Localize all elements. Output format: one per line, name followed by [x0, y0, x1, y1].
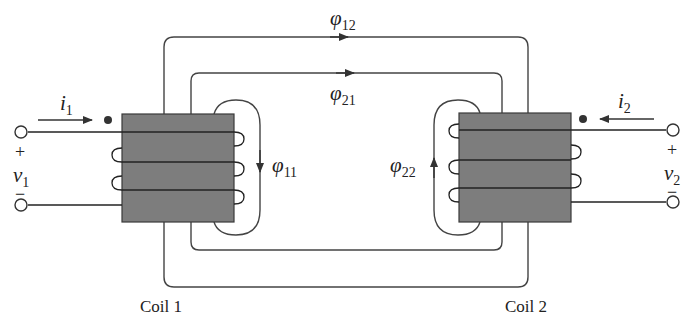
label-phi12: φ12: [330, 6, 356, 33]
terminal-coil2-plus: [667, 124, 679, 136]
v2-minus: −: [667, 182, 677, 202]
polarity-dot-coil2: [579, 115, 587, 123]
terminal-coil1-plus: [15, 126, 27, 138]
polarity-dot-coil1: [104, 116, 112, 124]
label-i1: i1: [60, 91, 73, 118]
coil-2: [449, 113, 666, 222]
v2-plus: +: [667, 140, 677, 160]
label-coil-1: Coil 1: [140, 297, 182, 316]
label-coil-2: Coil 2: [505, 297, 547, 316]
coupled-coils-diagram: i1 i2 + v1 − + v2 − φ12 φ21 φ11 φ22 Coil…: [0, 0, 686, 323]
v1-minus: −: [15, 184, 25, 204]
coil-1: [28, 114, 244, 222]
v1-plus: +: [15, 142, 25, 162]
label-i2: i2: [618, 89, 631, 116]
label-phi22: φ22: [390, 153, 416, 180]
label-phi11: φ11: [272, 153, 297, 180]
coil-1-core: [122, 114, 234, 222]
label-phi21: φ21: [330, 81, 356, 108]
